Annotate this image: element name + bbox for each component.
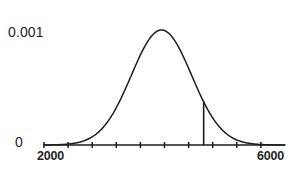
plot-canvas xyxy=(0,0,299,176)
normal-curve-figure: 0.001 0 2000 6000 xyxy=(0,0,299,176)
density-curve xyxy=(44,30,285,145)
